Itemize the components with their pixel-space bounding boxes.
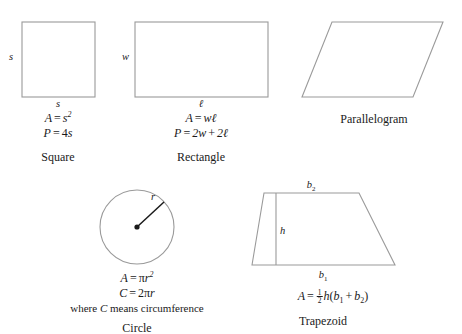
rectangle-width-label: w <box>122 52 129 63</box>
circle-area-formula: A=πr2 <box>121 272 154 284</box>
circle-center-dot <box>134 224 139 229</box>
trapezoid-shape-name: Trapezoid <box>299 315 347 327</box>
square-perimeter-formula: P=4s <box>44 127 73 139</box>
square-outline <box>22 22 95 97</box>
rectangle-length-label: ℓ <box>199 99 203 110</box>
fraction-denominator: 2 <box>317 297 323 305</box>
rectangle-area-rhs: wℓ <box>204 111 217 125</box>
circle-circumference-equals: = <box>127 286 138 300</box>
square-side-label-bottom: s <box>56 99 60 110</box>
circle-circumference-lhs: C <box>119 286 127 300</box>
rectangle-perimeter-term1: 2w <box>192 126 206 140</box>
trapezoid-bottom-base-label: b1 <box>319 270 328 281</box>
square-shape-name: Square <box>41 151 74 163</box>
trapezoid-height-label: h <box>280 226 285 237</box>
rectangle-perimeter-equals: = <box>181 126 192 140</box>
trapezoid-outline <box>252 193 395 265</box>
circle-area-exponent: 2 <box>149 270 153 279</box>
rectangle-area-formula: A=wℓ <box>185 112 216 124</box>
rectangle-perimeter-formula: P=2w+2ℓ <box>174 127 228 139</box>
rectangle-perimeter-term2: 2ℓ <box>217 126 228 140</box>
square-perimeter-var: s <box>68 126 73 140</box>
trapezoid-top-base-label: b2 <box>307 180 316 191</box>
trapezoid-area-equals: = <box>305 289 316 303</box>
circle-circumference-note: where C means circumference <box>70 303 203 314</box>
rectangle-outline <box>135 22 268 97</box>
circle-radius-line <box>137 202 164 227</box>
trapezoid-bottom-base-index: 1 <box>324 275 327 282</box>
trapezoid-area-fraction: 12 <box>317 289 323 306</box>
circle-shape-name: Circle <box>122 322 151 334</box>
rectangle-perimeter-plus: + <box>206 126 217 140</box>
trapezoid-area-close-paren: ) <box>364 289 368 303</box>
square-area-exponent: 2 <box>67 110 71 119</box>
circle-circumference-var: r <box>150 286 155 300</box>
shape-drawing-layer <box>0 0 462 334</box>
circle-outline <box>100 190 174 264</box>
trapezoid-area-formula: A=12h(b1+b2) <box>298 289 369 306</box>
parallelogram-shape-name: Parallelogram <box>340 113 407 125</box>
square-area-formula: A=s2 <box>45 112 72 124</box>
circle-area-equals: = <box>128 271 139 285</box>
square-side-label-left: s <box>9 52 13 63</box>
trapezoid-area-plus: + <box>344 289 355 303</box>
parallelogram-outline <box>302 22 443 97</box>
rectangle-area-equals: = <box>193 111 204 125</box>
circle-circumference-formula: C=2πr <box>119 287 155 299</box>
circle-note-suffix: means circumference <box>110 302 204 314</box>
circle-note-prefix: where <box>70 302 97 314</box>
circle-radius-label: r <box>151 192 155 203</box>
trapezoid-top-base-index: 2 <box>312 185 315 192</box>
square-perimeter-equals: = <box>51 126 62 140</box>
rectangle-shape-name: Rectangle <box>177 151 225 163</box>
geometry-formula-figure: s s A=s2 P=4s Square w ℓ A=wℓ P=2w+2ℓ Re… <box>0 0 462 334</box>
square-area-equals: = <box>52 111 63 125</box>
circle-note-symbol: C <box>100 302 107 314</box>
